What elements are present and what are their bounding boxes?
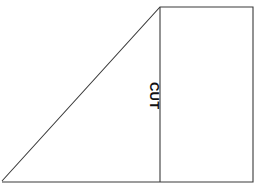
cut-label: CUT: [148, 82, 161, 109]
shape-diagram-svg: [0, 0, 258, 189]
trapezoid-outline: [2, 7, 253, 182]
diagram-canvas: CUT: [0, 0, 258, 189]
